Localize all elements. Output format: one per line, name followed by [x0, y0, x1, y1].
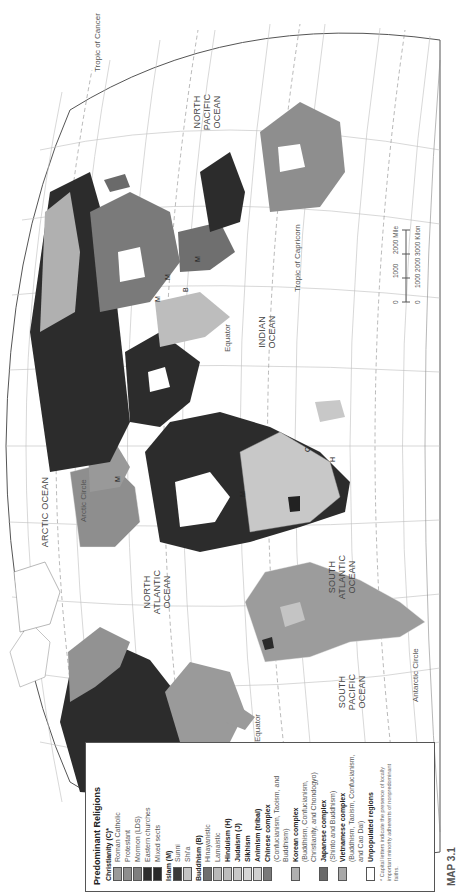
svg-text:0: 0: [392, 300, 399, 304]
label-antarctic-circle: Antarctic Circle: [411, 648, 420, 702]
swatch: [113, 867, 122, 881]
svg-text:C: C: [304, 447, 311, 452]
svg-text:H: H: [329, 457, 336, 462]
legend-item-unpopulated: Unpopulated regions: [366, 749, 375, 881]
legend-item-hinayanistic: Hinayanistic: [203, 749, 212, 881]
swatch: [183, 867, 192, 881]
swatch: [233, 867, 242, 881]
swatch: [123, 867, 132, 881]
legend-group-christianity: Christianity (C)*: [105, 749, 112, 881]
swatch: [253, 867, 262, 881]
swatch: [133, 867, 142, 881]
legend-item-protestant: Protestant: [123, 749, 132, 881]
label-arctic-circle: Arctic Circle: [79, 479, 88, 522]
swatch: [338, 867, 347, 881]
swatch: [291, 867, 300, 881]
legend-item-judaism: Judaism (J): [233, 749, 242, 881]
label-tropic-cancer: Tropic of Cancer: [93, 13, 102, 72]
svg-text:3000 Kilometers: 3000 Kilometers: [414, 226, 421, 256]
svg-text:M: M: [194, 256, 201, 262]
svg-text:M: M: [164, 274, 171, 280]
legend-item-mixed-sects: Mixed sects: [153, 749, 162, 881]
svg-text:1000: 1000: [392, 263, 399, 278]
label-arctic-ocean: ARCTIC OCEAN: [40, 477, 50, 547]
legend-item-sunni: Sunni: [173, 749, 182, 881]
label-north-pacific: NORTHPACIFICOCEAN: [192, 94, 222, 131]
label-south-pacific: SOUTHPACIFICOCEAN: [337, 674, 367, 711]
legend: Predominant Religions Christianity (C)* …: [85, 742, 435, 892]
svg-text:1000: 1000: [414, 273, 421, 288]
svg-text:B: B: [182, 287, 189, 292]
swatch: [153, 867, 162, 881]
legend-item-korean-complex: Korean complex(Buddhism, Confucianism, C…: [291, 749, 318, 881]
swatch: [243, 867, 252, 881]
map-number: MAP 3.1: [446, 847, 457, 886]
legend-item-lamaistic: Lamaistic: [213, 749, 222, 881]
label-tropic-capricorn: Tropic of Capricorn: [293, 224, 302, 292]
swatch: [213, 867, 222, 881]
scale-bar: 0 1000 2000 Miles 0 1000 2000 3000 Kilom…: [388, 226, 428, 306]
swatch: [173, 867, 182, 881]
legend-group-buddhism: Buddhism (B): [195, 749, 202, 881]
legend-group-islam: Islam (M): [165, 749, 172, 881]
svg-text:0: 0: [414, 300, 421, 304]
swatch: [319, 867, 328, 881]
legend-item-japanese-complex: Japanese complex(Shinto and Buddhism): [319, 749, 337, 881]
legend-item-vietnamese-complex: Vietnamese complex(Buddhism, Taoism, Con…: [338, 749, 365, 881]
label-north-atlantic: NORTHATLANTICOCEAN: [142, 569, 172, 614]
swatch: [143, 867, 152, 881]
label-equator-west: Equator: [253, 714, 262, 742]
svg-text:M: M: [239, 491, 246, 497]
label-south-atlantic: SOUTHATLANTICOCEAN: [327, 554, 357, 599]
legend-title: Predominant Religions: [92, 749, 102, 885]
svg-text:M: M: [154, 296, 161, 302]
legend-item-sikhism: Sikhism: [243, 749, 252, 881]
legend-item-roman-catholic: Roman Catholic: [113, 749, 122, 881]
swatch: [263, 867, 272, 881]
svg-text:M: M: [114, 476, 121, 482]
swatch: [223, 867, 232, 881]
label-indian-ocean: INDIANOCEAN: [257, 315, 277, 348]
legend-footnote: * Capital letters indicate the presence …: [379, 749, 400, 881]
swatch: [366, 867, 375, 881]
label-equator-east: Equator: [223, 324, 232, 352]
legend-item-mormon: Mormon (LDS): [133, 749, 142, 881]
legend-item-animism: Animism (tribal): [253, 749, 262, 881]
swatch: [203, 867, 212, 881]
svg-text:2000 Miles: 2000 Miles: [392, 226, 399, 254]
legend-item-shia: Shi'a: [183, 749, 192, 881]
legend-item-hinduism: Hinduism (H): [223, 749, 232, 881]
legend-item-eastern-churches: Eastern churches: [143, 749, 152, 881]
legend-item-chinese-complex: Chinese complex(Confucianism, Taoism, an…: [263, 749, 290, 881]
svg-text:2000: 2000: [414, 257, 421, 272]
